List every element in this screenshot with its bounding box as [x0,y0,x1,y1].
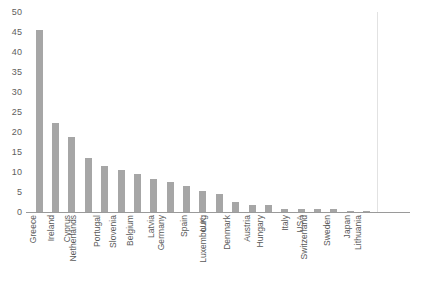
bar [150,179,157,212]
x-axis-tick-label: Latvia [147,215,156,238]
bar-slot [64,12,80,212]
y-axis-tick-label: 0 [17,208,22,217]
x-axis-line [26,212,410,213]
x-axis-tick-label: Germany [157,215,166,250]
x-axis-tick-label: Spain [180,215,189,237]
bar-slot [162,12,178,212]
y-axis-tick-label: 35 [12,68,22,77]
bar [363,211,370,212]
bar [68,137,75,212]
bar [232,202,239,212]
bar-slot [359,12,375,212]
bar-slot [228,12,244,212]
bar-slot [113,12,129,212]
bar-series [28,12,378,212]
y-axis-tick-label: 25 [12,108,22,117]
bar [85,158,92,212]
y-axis-tick-label: 40 [12,48,22,57]
x-axis-tick-label: Slovenia [109,215,118,248]
bar [52,123,59,212]
bar-slot [146,12,162,212]
x-axis-tick-label: Japan [343,215,352,238]
bar [298,209,305,212]
bar [347,211,354,212]
x-label-slot: Spain [178,215,194,283]
x-axis-tick-label: Lithuania [353,215,362,250]
bar [101,166,108,212]
bar [167,182,174,212]
bar-slot [129,12,145,212]
x-axis-labels: GreeceIrelandCyprusNetherlandsPortugalSl… [28,215,378,283]
x-axis-tick-label: Denmark [223,215,232,250]
bar [183,186,190,212]
bar-slot [277,12,293,212]
x-label-slot: Sweden [326,215,342,283]
bar [36,30,43,212]
x-label-slot: Greece [31,215,47,283]
x-axis-tick-label: Hungary [256,215,265,247]
bar [216,194,223,212]
y-axis-tick-label: 50 [12,8,22,17]
bar [281,209,288,212]
x-axis-tick-label: Italy [281,215,290,231]
bar-slot [244,12,260,212]
bar [199,191,206,212]
bar-slot [47,12,63,212]
y-axis-tick-label: 15 [12,148,22,157]
y-axis: 50454035302520151050 [0,12,26,213]
bar-slot [195,12,211,212]
x-axis-tick-label: Greece [29,215,38,243]
x-axis-tick-label: Switzerland [300,215,309,260]
y-axis-tick-label: 30 [12,88,22,97]
bar-slot [309,12,325,212]
x-axis-tick-label: Portugal [93,215,102,247]
x-label-slot: Lithuania [359,215,375,283]
x-label-slot: Hungary [260,215,276,283]
bar [314,209,321,212]
y-axis-tick-label: 10 [12,168,22,177]
bar-chart: 50454035302520151050 GreeceIrelandCyprus… [0,0,430,285]
y-axis-tick-label: 45 [12,28,22,37]
x-axis-tick-label: Belgium [126,215,135,246]
bar-slot [211,12,227,212]
x-axis-tick-label: Austria [243,215,252,242]
bar-slot [260,12,276,212]
bar [134,174,141,212]
bar-slot [97,12,113,212]
bar [118,170,125,212]
bar-slot [293,12,309,212]
x-axis-tick-label: Luxembourg [200,215,209,263]
bar [249,205,256,212]
x-axis-tick-label: Sweden [323,215,332,246]
bar-slot [326,12,342,212]
bar-slot [178,12,194,212]
x-axis-tick-label: Netherlands [69,215,78,261]
x-label-slot: Germany [162,215,178,283]
x-label-slot: Italy [277,215,293,283]
y-axis-tick-label: 20 [12,128,22,137]
bar-slot [31,12,47,212]
y-axis-tick-label: 5 [17,188,22,197]
bar-slot [80,12,96,212]
x-axis-tick-label: Ireland [47,215,56,241]
x-label-slot: Belgium [129,215,145,283]
bar-slot [342,12,358,212]
bar [330,209,337,212]
bar [265,205,272,212]
